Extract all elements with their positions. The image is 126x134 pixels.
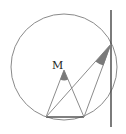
circle (11, 14, 117, 120)
angle-p-shade (96, 44, 112, 66)
segment-ap (46, 44, 111, 117)
label-m: M (52, 59, 63, 72)
geometry-figure: M (0, 0, 126, 134)
